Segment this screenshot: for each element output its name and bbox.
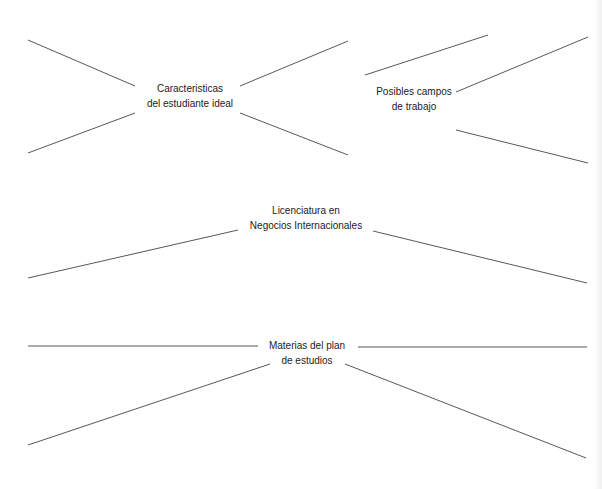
answer-line[interactable] [456,37,588,92]
node-campos-line1: Posibles campos [376,84,452,99]
node-licenciatura-line2: Negocios Internacionales [250,218,362,233]
node-campos-line2: de trabajo [376,99,452,114]
answer-line[interactable] [240,113,348,155]
answer-line[interactable] [365,35,488,75]
answer-line[interactable] [28,364,270,445]
node-licenciatura-line1: Licenciatura en [250,203,362,218]
answer-line[interactable] [345,364,586,458]
node-campos: Posibles campos de trabajo [376,84,452,114]
connector-lines [0,0,602,489]
answer-line[interactable] [28,113,135,153]
node-caracteristicas: Caracteristicas del estudiante ideal [147,81,233,111]
node-materias: Materias del plan de estudios [269,338,345,368]
answer-line[interactable] [28,230,238,278]
node-licenciatura: Licenciatura en Negocios Internacionales [250,203,362,233]
answer-line[interactable] [240,41,348,86]
answer-line[interactable] [456,130,588,163]
answer-line[interactable] [28,40,135,86]
answer-line[interactable] [373,231,587,283]
node-materias-line2: de estudios [269,353,345,368]
node-caracteristicas-line1: Caracteristicas [147,81,233,96]
node-caracteristicas-line2: del estudiante ideal [147,96,233,111]
node-materias-line1: Materias del plan [269,338,345,353]
